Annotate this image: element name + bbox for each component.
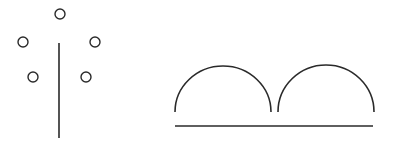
small-circle-5	[81, 72, 91, 82]
stem-with-circles	[18, 9, 100, 138]
arcs-over-baseline	[175, 65, 374, 126]
diagram-canvas	[0, 0, 395, 145]
semicircle-arc-1	[175, 66, 271, 112]
small-circle-3	[90, 37, 100, 47]
small-circle-2	[18, 37, 28, 47]
semicircle-arc-2	[278, 65, 374, 112]
diagram-figure	[0, 0, 395, 145]
small-circle-4	[28, 72, 38, 82]
small-circle-1	[55, 9, 65, 19]
